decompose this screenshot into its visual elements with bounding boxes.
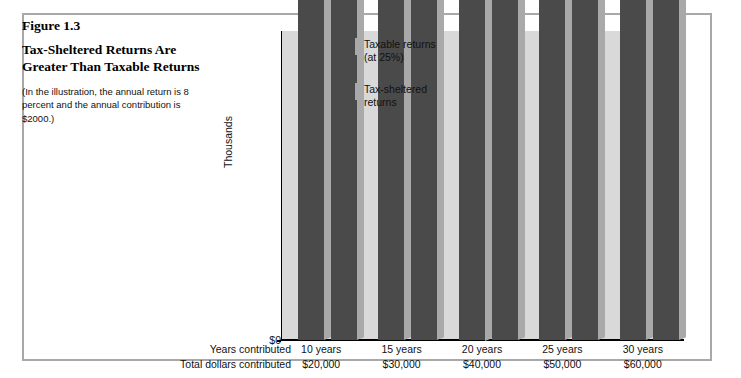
figure-caption: Figure 1.3 Tax-Sheltered Returns Are Gre… <box>22 18 212 125</box>
chart-legend: Taxable returns (at 25%) Tax-sheltered r… <box>338 38 436 128</box>
x-axis-row-years: Years contributed 10 years15 years20 yea… <box>228 343 706 358</box>
bar: $157,909 <box>572 0 598 340</box>
x-axis-row-dollars-title: Total dollars contributed <box>91 358 291 370</box>
y-axis-title: Thousands <box>222 116 234 168</box>
x-axis-row-dollars: Total dollars contributed $20,000$30,000… <box>228 358 706 373</box>
bar: $167,603 <box>620 0 646 340</box>
figure-number: Figure 1.3 <box>22 18 212 34</box>
x-axis-row-years-title: Years contributed <box>91 343 291 355</box>
bar: $98,846 <box>492 0 518 340</box>
legend-label-sheltered: Tax-sheltered returns <box>364 83 427 110</box>
x-axis-category-label: 10 years <box>281 343 361 355</box>
bar-side-face <box>679 0 686 340</box>
legend-label-taxable: Taxable returns (at 25%) <box>364 38 436 65</box>
legend-item-sheltered: Tax-sheltered returns <box>338 83 436 110</box>
figure-title: Tax-Sheltered Returns Are Greater Than T… <box>22 41 212 76</box>
bar: $244,691 <box>653 0 679 340</box>
x-axis-category-label: 30 years <box>603 343 683 355</box>
legend-label-sheltered-line2: returns <box>364 96 397 108</box>
bar: $116,313 <box>539 0 565 340</box>
x-axis-category-label: 15 years <box>362 343 442 355</box>
x-axis-dollars-label: $60,000 <box>603 358 683 370</box>
legend-swatch-taxable <box>338 38 355 55</box>
x-axis-labels: Years contributed 10 years15 years20 yea… <box>228 343 706 373</box>
bar-side-face <box>565 0 572 340</box>
bar: $77,985 <box>459 0 485 340</box>
figure-note: (In the illustration, the annual return … <box>22 85 212 125</box>
bar-side-face <box>324 0 331 340</box>
bar-group: $77,985$98,846 <box>442 31 522 340</box>
bar-group: $167,603$244,691 <box>603 31 683 340</box>
bar-side-face <box>646 0 653 340</box>
legend-label-sheltered-line1: Tax-sheltered <box>364 83 427 95</box>
legend-item-taxable: Taxable returns (at 25%) <box>338 38 436 65</box>
x-axis-dollars-label: $30,000 <box>362 358 442 370</box>
legend-label-taxable-line1: Taxable returns <box>364 38 436 50</box>
x-axis-category-label: 25 years <box>522 343 602 355</box>
x-axis-dollars-label: $20,000 <box>281 358 361 370</box>
x-axis-dollars-label: $50,000 <box>522 358 602 370</box>
y-axis-tick-mark <box>277 340 281 342</box>
x-axis-dollars-label: $40,000 <box>442 358 522 370</box>
bar-group: $116,313$157,909 <box>522 31 602 340</box>
bar-side-face <box>485 0 492 340</box>
bar-chart: $0$50$100$150$200$250 Thousands $27,943$… <box>228 18 706 358</box>
legend-swatch-sheltered <box>338 83 355 100</box>
x-axis-category-label: 20 years <box>442 343 522 355</box>
legend-label-taxable-line2: (at 25%) <box>364 51 404 63</box>
bar: $27,943 <box>298 0 324 340</box>
